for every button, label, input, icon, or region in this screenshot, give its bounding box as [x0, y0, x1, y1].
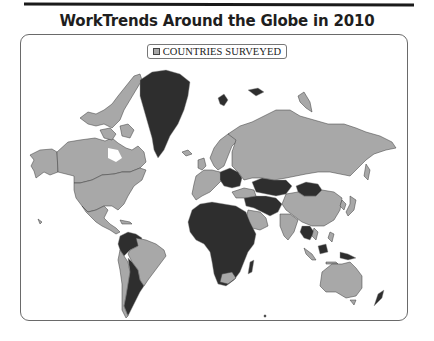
region-australia [320, 262, 362, 298]
region-arctic-islands [80, 74, 142, 128]
region-hawaii [38, 219, 42, 224]
map-legend: COUNTRIES SURVEYED [147, 44, 287, 59]
region-africa [188, 202, 256, 286]
region-southeast-asia [300, 226, 314, 240]
region-india [280, 214, 298, 240]
legend-label-surveyed: COUNTRIES SURVEYED [163, 46, 282, 57]
region-kazakhstan [252, 178, 292, 196]
legend-swatch-surveyed [153, 48, 160, 55]
region-greenland [140, 70, 190, 158]
region-russia [228, 110, 396, 180]
region-vietnam [312, 228, 318, 240]
region-iceland [182, 150, 192, 156]
region-western-europe [192, 170, 222, 200]
region-uk [198, 158, 206, 170]
region-madagascar [248, 260, 254, 274]
region-japan [346, 196, 356, 216]
region-new-zealand [374, 290, 384, 306]
region-alaska [30, 149, 58, 178]
